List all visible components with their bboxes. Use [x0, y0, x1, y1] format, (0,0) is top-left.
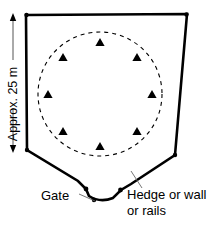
boundary-leader-line — [131, 171, 142, 188]
marker-triangle — [58, 53, 67, 61]
boundary-label-line1: Hedge or wall — [127, 187, 207, 202]
marker-triangle — [147, 90, 156, 98]
dashed-circle — [38, 32, 162, 156]
dimension-arrow-up-icon — [10, 13, 16, 21]
boundary-label-line2: or rails — [127, 203, 167, 218]
gate-label: Gate — [41, 188, 69, 203]
marker-triangle — [95, 38, 104, 46]
marker-triangle — [132, 53, 141, 61]
vertex-dot-gate-right — [118, 188, 123, 193]
marker-triangle — [43, 90, 52, 98]
marker-triangle — [95, 142, 104, 150]
vertex-dot-top-left — [24, 13, 28, 17]
marker-group — [43, 38, 156, 150]
vertex-dot-right-bend — [173, 153, 177, 157]
marker-triangle — [58, 127, 67, 135]
vertex-dot-top-right — [184, 12, 188, 16]
vertex-dot-left-bend — [25, 148, 29, 152]
field-enclosure-diagram: Approx. 25 m Gate Hedge or wall or rails — [0, 0, 209, 229]
dimension-label: Approx. 25 m — [6, 67, 20, 141]
dimension-arrow-down-icon — [10, 145, 16, 153]
marker-triangle — [132, 127, 141, 135]
vertex-dot-gate-left — [84, 187, 89, 192]
enclosure-boundary — [26, 14, 187, 200]
